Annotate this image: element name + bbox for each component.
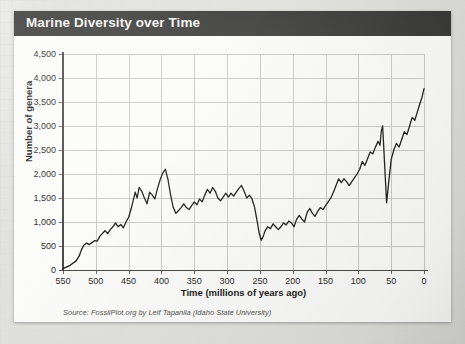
- y-tick-label: 1,000: [33, 217, 56, 227]
- source-note: Source: FossilPlot.org by Leif Tapanila …: [63, 308, 271, 317]
- y-tick-label: 3,000: [33, 121, 56, 131]
- gridline-vertical: [424, 54, 425, 270]
- y-tick-label: 1,500: [33, 193, 56, 203]
- chart-area: Number of genera 05001,0001,5002,0002,50…: [14, 36, 451, 322]
- chart-title-bar: Marine Diversity over Time: [14, 11, 451, 36]
- x-tick-label: 450: [121, 276, 136, 286]
- x-tick-label: 550: [55, 276, 70, 286]
- y-tick-label: 500: [41, 241, 56, 251]
- y-tick-label: 4,000: [33, 73, 56, 83]
- x-tick-label: 200: [285, 276, 300, 286]
- x-tick-label: 50: [386, 276, 396, 286]
- x-tick-label: 300: [220, 276, 235, 286]
- y-tick-label: 2,000: [33, 169, 56, 179]
- x-tick-label: 350: [187, 276, 202, 286]
- x-tick-label: 250: [252, 276, 267, 286]
- x-tick-label: 100: [351, 276, 366, 286]
- y-tick-label: 2,500: [33, 145, 56, 155]
- x-axis-title: Time (millions of years ago): [63, 287, 424, 298]
- plot-region: 05001,0001,5002,0002,5003,0003,5004,0004…: [63, 54, 424, 270]
- x-tick-label: 0: [421, 276, 426, 286]
- data-series-line: [63, 54, 424, 270]
- chart-card: Marine Diversity over Time Number of gen…: [14, 11, 451, 322]
- x-tick-label: 400: [154, 276, 169, 286]
- y-tick-label: 4,500: [33, 49, 56, 59]
- chart-title: Marine Diversity over Time: [26, 15, 200, 30]
- x-tick-label: 500: [88, 276, 103, 286]
- y-tick-label: 3,500: [33, 97, 56, 107]
- x-tick-label: 150: [318, 276, 333, 286]
- y-axis-title: Number of genera: [23, 81, 34, 162]
- y-tick-label: 0: [51, 265, 56, 275]
